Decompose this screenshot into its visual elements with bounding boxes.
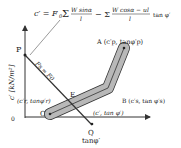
formula-frac2-num: W cosα − ul: [112, 6, 149, 13]
x-axis-label: tanφ′: [82, 137, 100, 145]
formula-frac1-num: W sinα: [71, 6, 92, 13]
formula-tail: tan φ′: [153, 11, 171, 19]
point-A-label: A (c′p, tanφ′p): [96, 38, 144, 46]
point-C-label: C: [40, 110, 45, 118]
formula-frac2-den: l: [129, 15, 131, 22]
point-A-marker: [123, 47, 126, 50]
point-E-coords: (c′, tan φ′): [93, 109, 124, 117]
point-E-label: E: [70, 91, 75, 99]
formula: c′ = F 0 Σ W sinα l − Σ W cosα − ul l ta…: [34, 6, 171, 22]
y-axis-label: c′ [kN/m²]: [8, 64, 16, 100]
point-P-label: P: [16, 45, 22, 54]
strength-parameter-diagram: c′ = F 0 Σ W sinα l − Σ W cosα − ul l ta…: [0, 0, 181, 148]
point-C-coords: (c′r, tanφ′r): [17, 97, 51, 105]
formula-sum1: Σ: [62, 8, 69, 19]
point-C-marker: [49, 113, 52, 116]
formula-lhs: c′ = F: [34, 9, 58, 18]
origin-label: 0: [11, 115, 15, 122]
point-B-label: B (c′s, tan φ′s): [122, 97, 165, 105]
fs-line-label: Fs = F0: [34, 59, 57, 82]
formula-leader-line: [30, 20, 60, 55]
point-P-marker: [24, 54, 27, 57]
point-Q-marker: [91, 123, 94, 126]
strength-band: [50, 48, 124, 114]
formula-frac1-den: l: [80, 15, 82, 22]
point-Q-label: Q: [88, 129, 94, 137]
formula-minus: − Σ: [95, 10, 110, 19]
